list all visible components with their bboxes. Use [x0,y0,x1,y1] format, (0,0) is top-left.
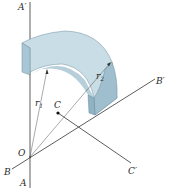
label-c: C [54,100,61,110]
label-o: O [18,148,26,158]
label-r1: r1 [35,98,43,109]
label-r1-sub: 1 [39,102,43,109]
centroid-point [56,111,59,114]
axis-b-b-prime [12,79,155,169]
axis-c-c-prime [58,113,131,163]
r1-arrowhead [46,69,49,74]
quarter-ring-diagram: A′ A B B′ O C C′ r1 r2 [0,0,173,193]
label-a: A [19,178,27,188]
bottom-end-face [88,95,95,115]
label-c-prime: C′ [128,166,137,176]
label-b: B [3,167,11,177]
label-b-prime: B′ [155,76,165,86]
label-a-prime: A′ [17,2,27,12]
origin-point [29,156,31,158]
label-r2-sub: 2 [99,75,104,82]
radius-r1-line [30,70,47,157]
front-end-face [22,43,30,75]
